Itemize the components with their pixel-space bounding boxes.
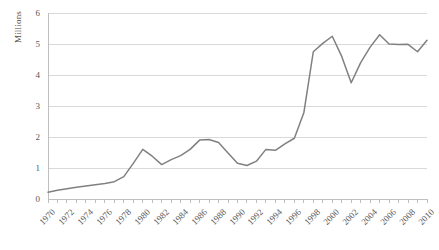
x-axis-tick-label: 1990 <box>223 207 247 231</box>
x-axis-tick-labels: 1970197219741976197819801982198419861988… <box>0 0 439 250</box>
x-axis-tick-label: 1986 <box>185 207 209 231</box>
x-axis-tick-label: 1984 <box>166 207 190 231</box>
x-axis-tick-label: 2006 <box>374 207 398 231</box>
line-chart: Millions 0123456 19701972197419761978198… <box>0 0 439 250</box>
x-axis-tick-label: 1992 <box>241 207 265 231</box>
x-axis-tick-label: 1994 <box>260 207 284 231</box>
x-axis-tick-label: 1970 <box>33 207 57 231</box>
x-axis-tick-label: 1982 <box>147 207 171 231</box>
x-axis-tick-label: 1976 <box>90 207 114 231</box>
x-axis-tick-label: 2010 <box>412 207 436 231</box>
x-axis-tick-label: 1978 <box>109 207 133 231</box>
x-axis-tick-label: 1988 <box>204 207 228 231</box>
x-axis-tick-label: 2004 <box>355 207 379 231</box>
x-axis-tick-label: 2000 <box>317 207 341 231</box>
x-axis-tick-label: 2008 <box>393 207 417 231</box>
x-axis-tick-label: 1972 <box>52 207 76 231</box>
x-axis-tick-label: 1974 <box>71 207 95 231</box>
x-axis-tick-label: 2002 <box>336 207 360 231</box>
x-axis-tick-label: 1980 <box>128 207 152 231</box>
x-axis-tick-label: 1998 <box>298 207 322 231</box>
x-axis-tick-label: 1996 <box>279 207 303 231</box>
